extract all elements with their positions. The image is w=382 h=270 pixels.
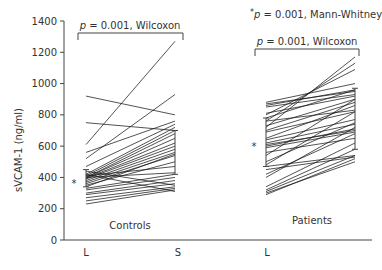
y-tick-label: 200 bbox=[38, 203, 57, 214]
paired-line bbox=[86, 181, 175, 194]
paired-line bbox=[86, 188, 175, 201]
iqr-whisker bbox=[172, 131, 178, 175]
controls-series bbox=[86, 41, 175, 204]
y-tick-label: 1400 bbox=[32, 16, 57, 27]
x-tick-S: S bbox=[175, 247, 181, 258]
paired-line bbox=[86, 96, 175, 115]
iqr-whisker bbox=[352, 88, 358, 149]
y-axis-label: sVCAM-1 (ng/ml) bbox=[13, 108, 24, 192]
paired-line bbox=[86, 121, 175, 152]
patients-bracket bbox=[255, 49, 359, 56]
paired-line bbox=[86, 149, 175, 180]
controls-bracket bbox=[78, 33, 183, 40]
y-tick-label: 1000 bbox=[32, 78, 57, 89]
y-tick-label: 0 bbox=[51, 235, 57, 246]
paired-line bbox=[86, 138, 175, 177]
patients-series bbox=[266, 57, 355, 195]
paired-line bbox=[266, 159, 355, 195]
y-tick-label: 1200 bbox=[32, 47, 57, 58]
paired-line bbox=[266, 129, 355, 146]
controls-asterisk: * bbox=[72, 178, 77, 189]
y-tick-label: 600 bbox=[38, 141, 57, 152]
patients-asterisk: * bbox=[252, 141, 257, 152]
paired-line bbox=[86, 95, 175, 159]
paired-line bbox=[266, 90, 355, 118]
paired-line bbox=[266, 120, 355, 140]
x-tick-L-patients: L bbox=[264, 247, 270, 258]
patients-wilcoxon-annotation: p = 0.001, Wilcoxon bbox=[256, 36, 358, 47]
group-label-patients: Patients bbox=[292, 215, 332, 226]
paired-line bbox=[266, 95, 355, 108]
mann-whitney-annotation: *p = 0.001, Mann-Whitney bbox=[250, 8, 382, 20]
paired-line bbox=[266, 162, 355, 193]
paired-slope-chart: 0200400600800100012001400 sVCAM-1 (ng/ml… bbox=[0, 0, 382, 270]
paired-line bbox=[266, 157, 355, 170]
y-tick-label: 800 bbox=[38, 109, 57, 120]
y-tick-label: 400 bbox=[38, 172, 57, 183]
group-label-controls: Controls bbox=[109, 220, 150, 231]
y-ticks: 0200400600800100012001400 bbox=[32, 16, 64, 246]
paired-line bbox=[86, 131, 175, 176]
x-tick-L-controls: L bbox=[83, 247, 89, 258]
paired-line bbox=[86, 154, 175, 187]
controls-wilcoxon-annotation: p = 0.001, Wilcoxon bbox=[79, 20, 181, 31]
